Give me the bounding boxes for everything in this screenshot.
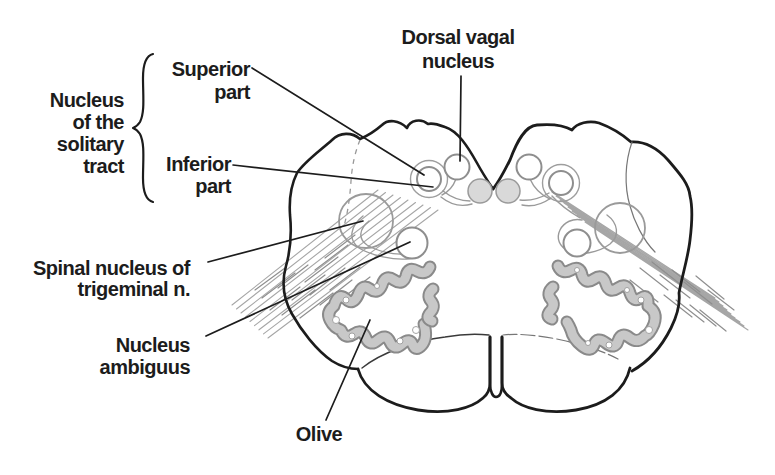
medulla-outline (284, 121, 692, 412)
label-line: nucleus (360, 49, 556, 73)
label-line: Spinal nucleus of (28, 258, 190, 279)
leader-line-spinal-trigeminal (208, 221, 363, 262)
label-line: part (131, 175, 231, 197)
label-spinal-nucleus-of-trigeminal: Spinal nucleus of trigeminal n. (28, 258, 190, 300)
label-line: trigeminal n. (28, 279, 190, 300)
label-line: Nucleus (90, 334, 190, 356)
label-dorsal-vagal-nucleus: Dorsal vagal nucleus (360, 25, 556, 73)
label-line: tract (20, 155, 124, 177)
brainstem-diagram: Dorsal vagal nucleus Nucleus of the soli… (0, 0, 775, 475)
label-line: of the (20, 111, 124, 133)
anterior-median-fissure (490, 337, 502, 397)
label-line: ambiguus (90, 356, 190, 378)
label-olive: Olive (279, 423, 359, 445)
label-line: Superior (150, 58, 250, 81)
dorsal-vagal-nucleus-left-circle (445, 155, 470, 180)
leader-line-inferior-part (233, 165, 433, 187)
label-nucleus-of-the-solitary-tract: Nucleus of the solitary tract (20, 89, 124, 177)
nuclei (339, 155, 645, 259)
midline-gray-nucleus-right (496, 179, 520, 203)
inner-boundary-dashed-left (344, 140, 360, 226)
fiber-channel-right (520, 193, 551, 206)
solitary-nucleus-right-circle (549, 171, 573, 195)
label-superior-part: Superior part (150, 58, 250, 104)
label-nucleus-ambiguus: Nucleus ambiguus (90, 334, 190, 378)
midline-gray-nucleus-left (468, 179, 492, 203)
nucleus-ambiguus-left-circle (397, 228, 428, 259)
label-line: part (150, 81, 250, 104)
olive-right-fragment-fill (548, 287, 553, 319)
label-line: Olive (279, 423, 359, 445)
label-line: Inferior (131, 153, 231, 175)
dorsal-vagal-nucleus-right-circle (517, 155, 542, 180)
leader-line-dorsal-vagal (460, 76, 461, 161)
label-line: Dorsal vagal (360, 25, 556, 49)
label-inferior-part: Inferior part (131, 153, 231, 197)
nucleus-ambiguus-right-circle (564, 230, 591, 257)
olive-right (548, 266, 655, 349)
label-line: Nucleus (20, 89, 124, 111)
right-lateral-lobe-inner-edge (626, 142, 655, 252)
label-line: solitary (20, 133, 124, 155)
olive-left-fragment-fill (428, 289, 433, 321)
